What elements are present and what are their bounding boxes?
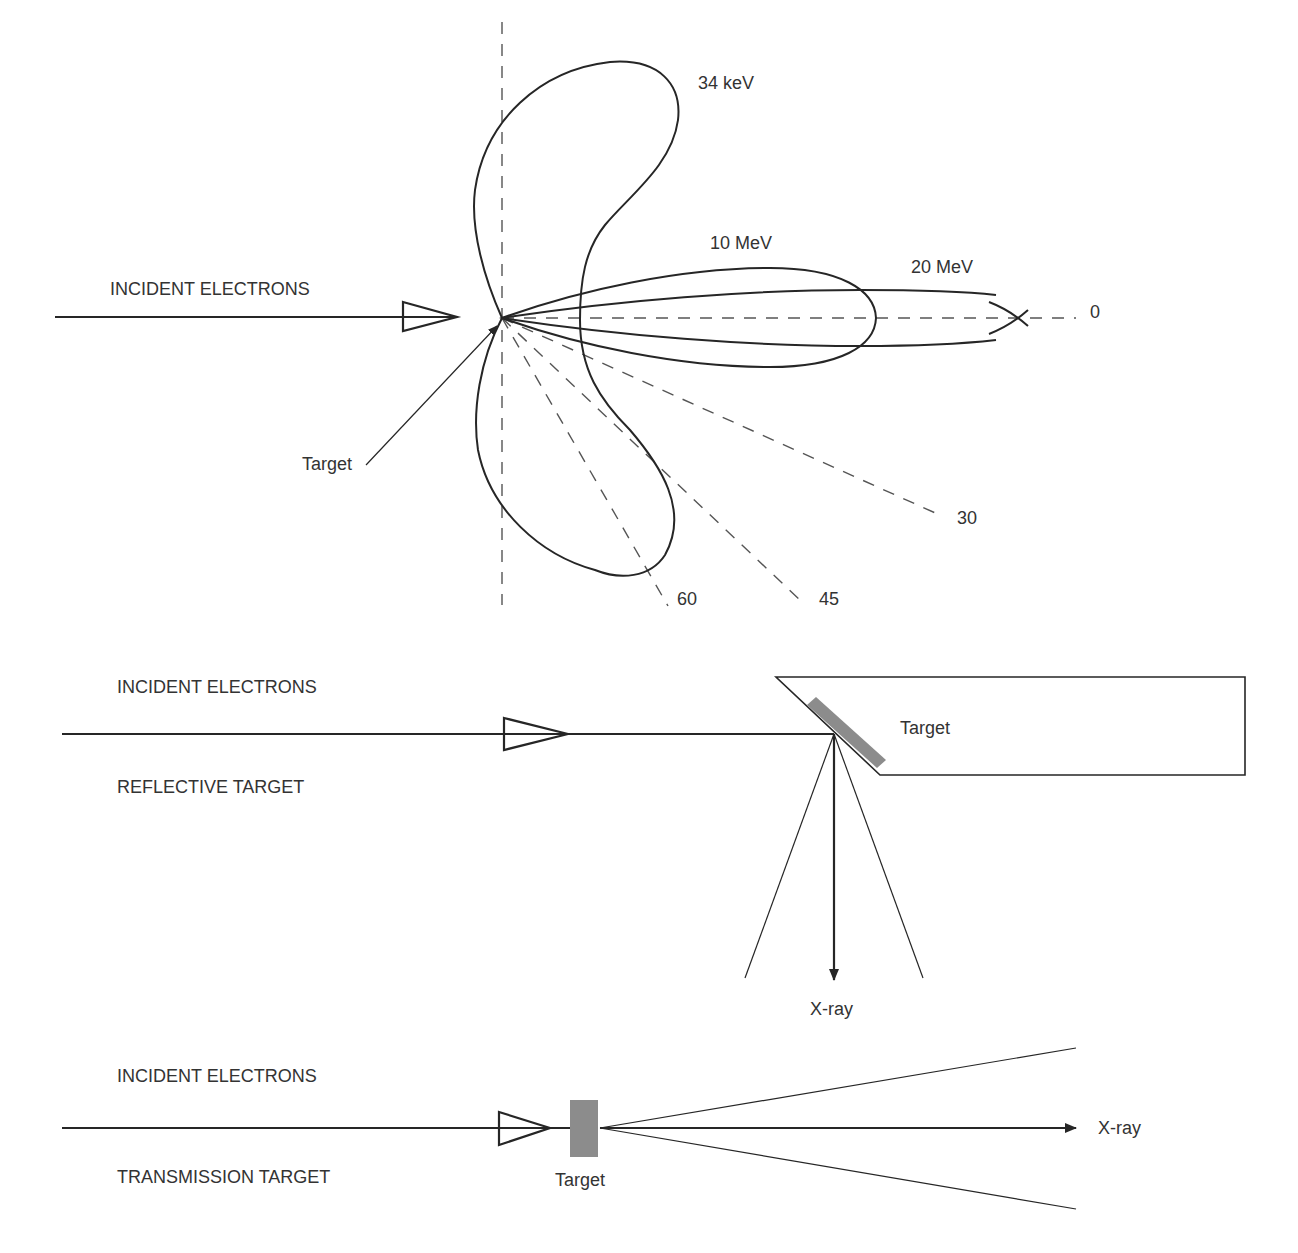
angle-label-30: 30 <box>957 508 977 528</box>
reflective-xray-label: X-ray <box>810 999 853 1019</box>
angle-label-60: 60 <box>677 589 697 609</box>
polar-distribution-panel: INCIDENT ELECTRONS 0 30 45 60 34 keV 10 … <box>55 22 1100 609</box>
transmission-target-panel: INCIDENT ELECTRONS TRANSMISSION TARGET T… <box>62 1048 1141 1209</box>
angle-ray-45 <box>502 318 800 600</box>
reflective-mode-label: REFLECTIVE TARGET <box>117 777 304 797</box>
transmission-mode-label: TRANSMISSION TARGET <box>117 1167 330 1187</box>
transmission-target-block <box>570 1100 598 1157</box>
transmission-target-label: Target <box>555 1170 605 1190</box>
transmission-xray-label: X-ray <box>1098 1118 1141 1138</box>
reflective-target-label: Target <box>900 718 950 738</box>
xray-cone-left <box>745 734 834 978</box>
angle-ray-30 <box>502 318 942 516</box>
lobe-label-20mev: 20 MeV <box>911 257 973 277</box>
incident-electrons-label: INCIDENT ELECTRONS <box>110 279 310 299</box>
reflective-target-strip <box>807 697 886 768</box>
transmission-incident-label: INCIDENT ELECTRONS <box>117 1066 317 1086</box>
lobe-20mev-lower <box>502 318 996 346</box>
xray-production-diagram: INCIDENT ELECTRONS 0 30 45 60 34 keV 10 … <box>0 0 1298 1253</box>
xray-cone-upper <box>600 1048 1076 1128</box>
lobe-label-34kev: 34 keV <box>698 73 754 93</box>
lobe-label-10mev: 10 MeV <box>710 233 772 253</box>
reflective-incident-label: INCIDENT ELECTRONS <box>117 677 317 697</box>
xray-cone-lower <box>600 1128 1076 1209</box>
angle-label-45: 45 <box>819 589 839 609</box>
xray-cone-right <box>834 734 923 978</box>
reflective-target-panel: INCIDENT ELECTRONS REFLECTIVE TARGET Tar… <box>62 677 1245 1019</box>
target-label: Target <box>302 454 352 474</box>
angle-label-0: 0 <box>1090 302 1100 322</box>
